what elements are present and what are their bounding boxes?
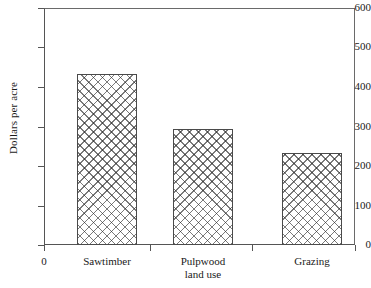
x-label-pulpwood-text: Pulpwood	[181, 255, 226, 267]
x-label-grazing-text: Grazing	[294, 255, 329, 267]
x-axis-origin-label: 0	[34, 255, 54, 267]
bar-chart: Dollars per acre 600 500 400 300 200 100…	[0, 0, 371, 288]
y-tick-label-0: 0	[337, 239, 371, 250]
x-label-pulpwood: Pulpwood land use	[163, 255, 243, 281]
y-tick-400	[38, 87, 44, 88]
x-label-sawtimber-text: Sawtimber	[83, 255, 131, 267]
y-tick-label-200: 200	[337, 160, 371, 171]
x-axis-title: land use	[163, 268, 243, 281]
y-axis-title: Dollars per acre	[7, 53, 19, 183]
bar-sawtimber	[77, 74, 137, 245]
y-tick-500	[38, 47, 44, 48]
y-tick-label-100: 100	[337, 200, 371, 211]
y-tick-label-600: 600	[337, 2, 371, 13]
y-tick-300	[38, 127, 44, 128]
x-label-sawtimber: Sawtimber	[67, 255, 147, 268]
x-tick-1	[150, 245, 151, 251]
y-tick-label-400: 400	[337, 81, 371, 92]
y-tick-200	[38, 166, 44, 167]
y-tick-label-300: 300	[337, 121, 371, 132]
x-tick-3	[355, 245, 356, 251]
y-tick-100	[38, 206, 44, 207]
y-tick-label-500: 500	[337, 41, 371, 52]
bar-pulpwood	[173, 129, 233, 245]
x-label-grazing: Grazing	[272, 255, 352, 268]
x-tick-2	[252, 245, 253, 251]
bar-grazing	[282, 153, 342, 245]
y-tick-600	[38, 8, 44, 9]
x-tick-origin	[44, 245, 45, 251]
